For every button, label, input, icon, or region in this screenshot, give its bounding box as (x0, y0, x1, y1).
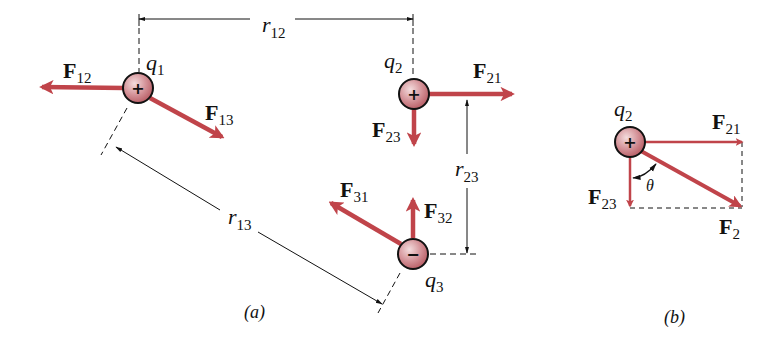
negative-sign-icon: − (406, 245, 419, 264)
f21-label-b: F21 (712, 109, 740, 137)
panel-a: r12 r13 r23 + (42, 12, 512, 323)
f2-label-b: F2 (719, 214, 740, 242)
charge-q3: − (398, 239, 428, 269)
r12-dimension (139, 14, 413, 78)
f32-label: F32 (424, 198, 452, 226)
panel-b: θ + q2 F21 F23 F2 (b) (588, 96, 742, 328)
f21-label: F21 (473, 58, 501, 86)
f23-label-b: F23 (588, 184, 616, 212)
q2-label: q2 (384, 48, 403, 76)
charge-q2: + (399, 79, 429, 109)
angle-arc (633, 164, 656, 178)
force-arrow-f2-resultant (641, 151, 740, 206)
coulomb-force-diagram: r12 r13 r23 + (0, 0, 784, 351)
caption-a: (a) (244, 302, 265, 323)
theta-label: θ (646, 177, 654, 194)
q2-label-b: q2 (614, 96, 633, 124)
q3-label: q3 (425, 267, 444, 295)
charge-q1: + (123, 73, 153, 103)
f31-label: F31 (340, 177, 368, 205)
q1-label: q1 (146, 50, 165, 78)
r13-dimension (101, 108, 400, 313)
caption-b: (b) (664, 307, 685, 328)
positive-sign-icon: + (131, 79, 144, 98)
f12-label: F12 (63, 58, 91, 86)
r13-label: r13 (228, 204, 252, 233)
r23-label: r23 (455, 156, 479, 185)
force-arrow-f31 (331, 203, 401, 244)
force-arrow-f12 (42, 87, 124, 88)
r12-label: r12 (262, 12, 286, 41)
f23-label: F23 (372, 117, 400, 145)
charge-q2-b: + (615, 127, 645, 157)
f13-label: F13 (205, 100, 233, 128)
positive-sign-icon: + (407, 85, 420, 104)
positive-sign-icon: + (623, 133, 636, 152)
